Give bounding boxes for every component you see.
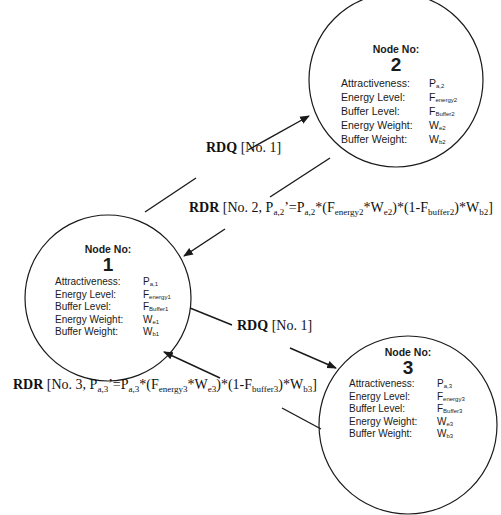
edge-label-rdr-3-to-1: RDR [No. 3, Pa,3’=Pa,3*(Fenergy3*We3)*(1… <box>13 377 317 394</box>
node-properties: Attractiveness:Pa,3 Energy Level:Fenergy… <box>349 379 465 442</box>
field-buffer-weight: Buffer Weight:Wb2 <box>341 134 457 148</box>
field-buffer-weight: Buffer Weight:Wb3 <box>349 429 465 442</box>
node-number: 1 <box>25 255 191 274</box>
field-attractiveness: Attractiveness:Pa,1 <box>55 277 171 290</box>
node-number: 2 <box>309 55 483 74</box>
field-attractiveness: Attractiveness:Pa,2 <box>341 78 457 92</box>
field-energy-level: Energy Level:Fenergy2 <box>341 92 457 106</box>
edge-rdq-1-to-3 <box>190 308 336 368</box>
field-buffer-level: Buffer Level:FBuffer2 <box>341 106 457 120</box>
edge-label-rdq-1-to-3: RDQ [No. 1] <box>237 318 312 334</box>
edge-label-rdr-2-to-1: RDR [No. 2, Pa,2’=Pa,2*(Fenergy2*We2)*(1… <box>189 200 493 217</box>
node-3: Node No: 3 Attractiveness:Pa,3 Energy Le… <box>319 336 497 514</box>
field-buffer-level: Buffer Level:FBuffer1 <box>55 302 171 315</box>
field-attractiveness: Attractiveness:Pa,3 <box>349 379 465 392</box>
edge-rdq-1-to-2 <box>145 116 309 212</box>
edge-label-rdq-1-to-2: RDQ [No. 1] <box>206 140 281 156</box>
node-number: 3 <box>319 358 497 377</box>
field-buffer-level: Buffer Level:FBuffer3 <box>349 404 465 417</box>
node-properties: Attractiveness:Pa,2 Energy Level:Fenergy… <box>341 78 457 148</box>
field-energy-weight: Energy Weight:We2 <box>341 120 457 134</box>
node-1: Node No: 1 Attractiveness:Pa,1 Energy Le… <box>25 215 191 381</box>
node-2: Node No: 2 Attractiveness:Pa,2 Energy Le… <box>309 0 483 167</box>
field-buffer-weight: Buffer Weight:Wb1 <box>55 327 171 340</box>
node-properties: Attractiveness:Pa,1 Energy Level:Fenergy… <box>55 277 171 340</box>
